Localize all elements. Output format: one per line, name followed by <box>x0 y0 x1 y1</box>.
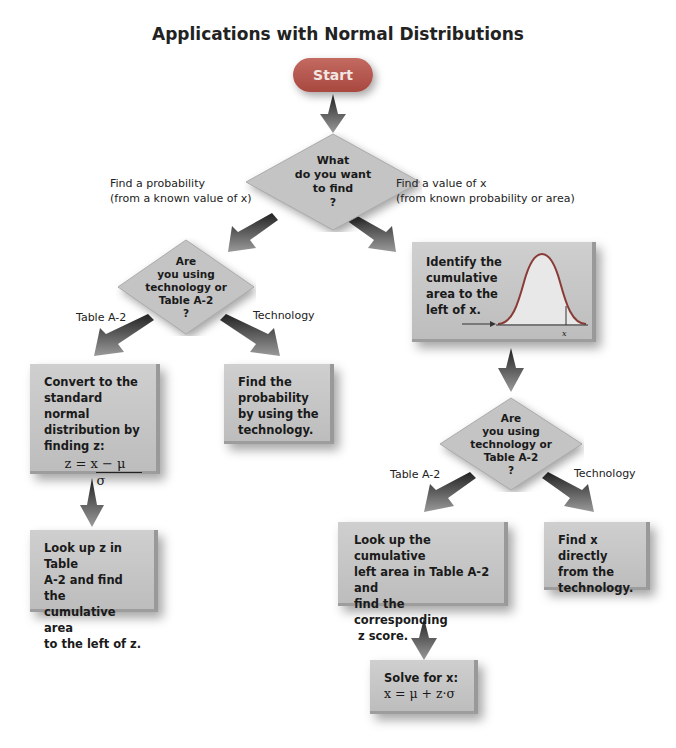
box-convert-to-z: Convert to the standard normal distribut… <box>30 364 160 474</box>
decision-line: technology or <box>470 438 552 451</box>
box-line: technology. <box>558 580 636 596</box>
box-line: distribution by <box>44 422 146 438</box>
decision-line: ? <box>330 196 336 210</box>
box-line: z score. <box>354 628 494 644</box>
label-line: Find a probability <box>110 176 252 191</box>
label-line: Find a value of x <box>396 176 575 191</box>
box-line: finding z: <box>44 438 146 454</box>
decision-technology-or-table-right: Are you using technology or Table A-2 ? <box>438 396 584 492</box>
box-line: left area in Table A-2 and <box>354 564 494 596</box>
box-line: technology. <box>238 422 320 438</box>
box-line: Find the <box>238 374 320 390</box>
box-line: to the left of z. <box>44 636 144 652</box>
branch-label-table-a2-right: Table A-2 <box>390 467 440 482</box>
box-line: from the <box>558 564 636 580</box>
start-terminal: Start <box>293 58 373 92</box>
box-line: Convert to the <box>44 374 146 390</box>
branch-label-table-a2-left: Table A-2 <box>76 310 126 325</box>
branch-label-find-probability: Find a probability (from a known value o… <box>110 176 252 206</box>
box-line: find the corresponding <box>354 596 494 628</box>
decision-line: Table A-2 <box>159 294 214 307</box>
box-lookup-z-table: Look up z in Table A-2 and find the cumu… <box>30 530 158 612</box>
branch-label-technology-left: Technology <box>253 308 315 323</box>
branch-label-technology-right: Technology <box>574 466 636 481</box>
decision-line: technology or <box>145 281 227 294</box>
box-line: Solve for x: <box>384 670 464 686</box>
box-solve-for-x: Solve for x: x = μ + z·σ <box>370 660 478 714</box>
box-line: Look up the cumulative <box>354 532 494 564</box>
branch-label-find-x: Find a value of x (from known probabilit… <box>396 176 575 206</box>
box-line: probability <box>238 390 320 406</box>
box-line: A-2 and find the <box>44 572 144 604</box>
normal-curve-icon <box>412 242 596 342</box>
box-lookup-z-score: Look up the cumulative left area in Tabl… <box>338 522 508 606</box>
box-find-x-technology: Find x directly from the technology. <box>544 522 650 590</box>
label-line: (from known probability or area) <box>396 191 575 206</box>
box-identify-cumulative-area: Identify the cumulative area to the left… <box>412 242 596 342</box>
decision-line: Are <box>501 412 521 425</box>
box-line: cumulative area <box>44 604 144 636</box>
formula-denominator: σ <box>44 473 146 489</box>
decision-line: ? <box>508 464 514 477</box>
formula-numerator: z = x − μ <box>44 456 146 472</box>
x-formula: x = μ + z·σ <box>384 686 464 702</box>
box-line: Look up z in Table <box>44 540 144 572</box>
box-find-probability-technology: Find the probability by using the techno… <box>224 364 334 444</box>
decision-line: to find <box>313 182 354 196</box>
z-formula: z = x − μ σ <box>44 456 146 489</box>
page-title: Applications with Normal Distributions <box>0 24 676 44</box>
box-line: Find x directly <box>558 532 636 564</box>
box-line: by using the <box>238 406 320 422</box>
decision-line: you using <box>157 268 215 281</box>
decision-line: you using <box>482 425 540 438</box>
label-line: (from a known value of x) <box>110 191 252 206</box>
decision-line: What <box>317 154 350 168</box>
decision-line: do you want <box>295 168 371 182</box>
decision-line: Are <box>176 255 196 268</box>
decision-technology-or-table-left: Are you using technology or Table A-2 ? <box>116 238 256 336</box>
decision-line: ? <box>183 307 189 320</box>
box-line: standard normal <box>44 390 146 422</box>
curve-axis-label: x <box>562 326 567 342</box>
decision-line: Table A-2 <box>484 451 539 464</box>
